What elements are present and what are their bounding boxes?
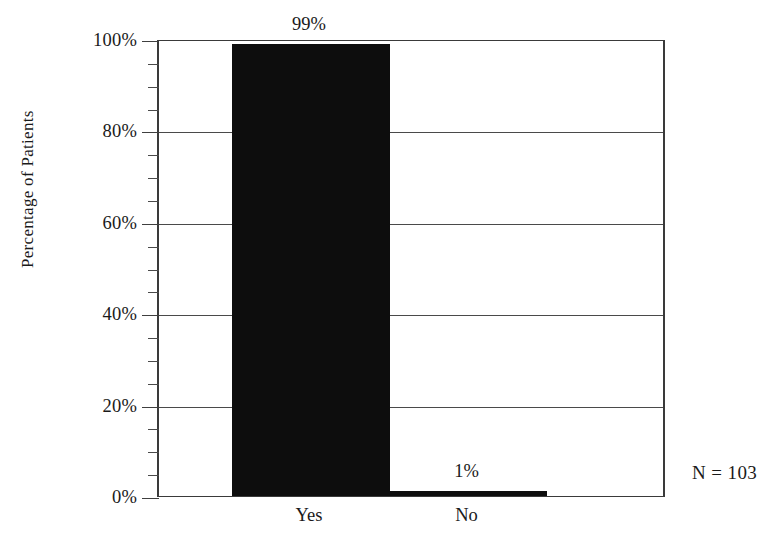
- y-axis-title: Percentage of Patients: [18, 110, 38, 268]
- bar-no: [390, 491, 547, 496]
- y-axis-major-tick: [142, 498, 159, 499]
- y-axis-minor-tick: [148, 429, 159, 430]
- y-axis-minor-tick: [148, 452, 159, 453]
- y-axis-tick-label: 20%: [102, 396, 137, 417]
- sample-size-annotation: N = 103: [692, 462, 757, 484]
- plot-area: 0%20%40%60%80%100%: [157, 40, 665, 497]
- y-axis-minor-tick: [148, 64, 159, 65]
- y-axis-minor-tick: [148, 178, 159, 179]
- y-axis-minor-tick: [148, 384, 159, 385]
- y-axis-tick-label: 100%: [93, 30, 137, 51]
- bar-chart: Percentage of Patients 0%20%40%60%80%100…: [0, 0, 771, 550]
- y-axis-major-tick: [142, 41, 159, 42]
- y-axis-minor-tick: [148, 475, 159, 476]
- y-axis-minor-tick: [148, 110, 159, 111]
- value-label-yes: 99%: [292, 14, 326, 35]
- y-axis-major-tick: [142, 132, 159, 133]
- y-axis-tick-label: 60%: [102, 213, 137, 234]
- y-axis-minor-tick: [148, 87, 159, 88]
- y-axis-minor-tick: [148, 361, 159, 362]
- y-axis-minor-tick: [148, 247, 159, 248]
- y-axis-minor-tick: [148, 155, 159, 156]
- category-label-no: No: [455, 505, 478, 526]
- category-label-yes: Yes: [296, 505, 323, 526]
- y-axis-tick-label: 80%: [102, 121, 137, 142]
- y-axis-major-tick: [142, 315, 159, 316]
- value-label-no: 1%: [454, 461, 479, 482]
- y-axis-minor-tick: [148, 292, 159, 293]
- y-axis-tick-label: 0%: [112, 487, 137, 508]
- y-axis-tick-label: 40%: [102, 304, 137, 325]
- bar-yes: [232, 44, 390, 496]
- y-axis-minor-tick: [148, 270, 159, 271]
- y-axis-minor-tick: [148, 201, 159, 202]
- y-axis-minor-tick: [148, 338, 159, 339]
- y-axis-major-tick: [142, 407, 159, 408]
- y-axis-major-tick: [142, 224, 159, 225]
